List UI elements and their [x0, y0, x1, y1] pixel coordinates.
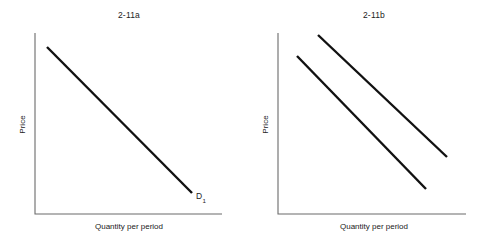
- y-axis-label-b: Price: [261, 105, 270, 145]
- axes-b: [278, 33, 466, 214]
- figure-sheet: 2-11a D1 Quantity per period Price 2-11b…: [0, 0, 485, 247]
- demand-curve-d1-a: [47, 47, 192, 193]
- curve-label-d1-a-base: D: [196, 191, 202, 201]
- plot-area-b: [243, 0, 485, 247]
- panel-2-11b: 2-11b D2 D1 Quantity per period Price: [243, 0, 485, 247]
- curve-label-d1-a-sub: 1: [203, 197, 206, 204]
- plot-area-a: [0, 0, 242, 247]
- panel-2-11a: 2-11a D1 Quantity per period Price: [0, 0, 242, 247]
- axes-a: [35, 33, 222, 214]
- curve-label-d1-a: D1: [196, 192, 206, 203]
- x-axis-label-b: Quantity per period: [309, 222, 439, 231]
- x-axis-label-a: Quantity per period: [64, 222, 194, 231]
- y-axis-label-a: Price: [18, 105, 27, 145]
